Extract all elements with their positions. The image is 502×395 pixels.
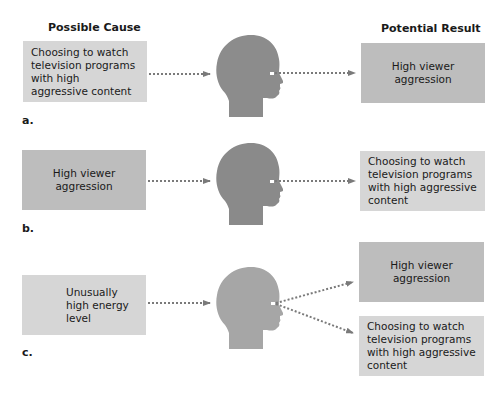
- diagram-graphics: [0, 0, 502, 395]
- head-silhouette-a-icon: [216, 35, 283, 117]
- head-silhouette-b-icon: [216, 143, 283, 225]
- arrow-c-head-to-result-1: [276, 282, 353, 303]
- eye-c: [271, 302, 275, 305]
- eye-b: [270, 180, 274, 183]
- head-silhouette-c-icon: [216, 267, 283, 349]
- arrow-c-head-to-result-2: [276, 304, 353, 333]
- eye-a: [270, 72, 274, 75]
